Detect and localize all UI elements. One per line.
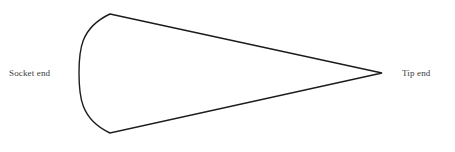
wedge-outline-path [79,14,382,133]
wedge-diagram [0,0,455,152]
label-tip-end: Tip end [402,68,430,79]
figure-container: Socket end Tip end [0,0,455,152]
label-socket-end: Socket end [9,68,50,79]
